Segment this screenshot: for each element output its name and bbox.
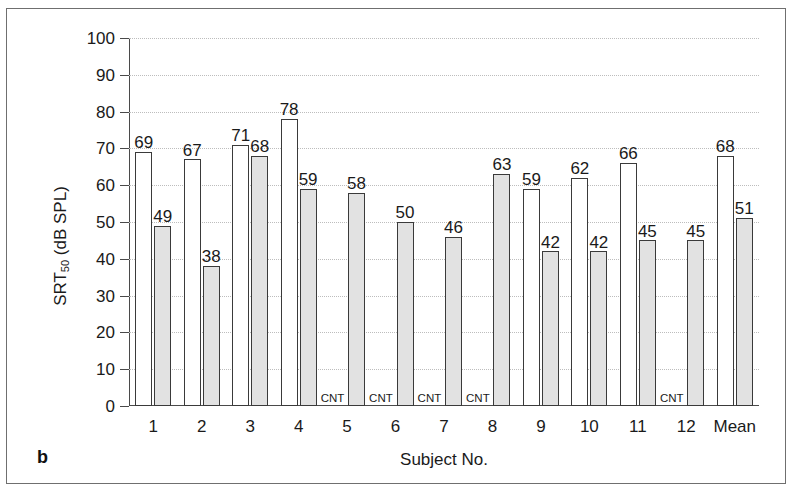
plot-area: 1009080706050403020100 6949673871687859C… (129, 38, 759, 406)
bar-value-label: 71 (231, 127, 250, 145)
y-axis-tick (120, 332, 129, 333)
bar-gray[interactable]: 58 (348, 193, 365, 406)
x-axis-tick-label: 10 (580, 418, 599, 435)
bar-value-label: 38 (202, 248, 221, 266)
y-axis-title: SRT50 (dB SPL) (51, 186, 71, 306)
bar-group: 6949 (135, 38, 171, 406)
x-axis-tick-label: 11 (629, 418, 647, 435)
bar-gray[interactable]: 38 (203, 266, 220, 406)
x-axis-tick-label: 4 (294, 418, 303, 435)
bar-value-label: 42 (589, 234, 608, 252)
y-axis-tick (120, 38, 129, 39)
bar-value-label: 68 (716, 138, 735, 156)
bar-value-label: 42 (541, 234, 560, 252)
cnt-marker: CNT (652, 393, 691, 405)
bar-white[interactable]: 59 (523, 189, 540, 406)
bar-value-label: 49 (153, 208, 172, 226)
y-axis-tick-label: 0 (106, 398, 115, 415)
bar-value-label: 68 (250, 138, 269, 156)
y-axis-tick-label: 50 (96, 214, 115, 231)
x-axis-tick-label: 5 (342, 418, 351, 435)
x-axis-tick-label: 8 (488, 418, 497, 435)
y-axis-tick (120, 222, 129, 223)
cnt-marker: CNT (361, 393, 400, 405)
bar-gray[interactable]: 51 (736, 218, 753, 406)
bar-group: CNT45 (668, 38, 704, 406)
y-axis-title-subscript: 50 (59, 260, 71, 272)
bar-gray[interactable]: 50 (397, 222, 414, 406)
y-axis-tick (120, 185, 129, 186)
x-axis-tick-label: 9 (536, 418, 545, 435)
y-axis-tick (120, 369, 129, 370)
y-axis-tick (120, 296, 129, 297)
y-axis-tick (120, 148, 129, 149)
x-axis-tick-label: 7 (439, 418, 448, 435)
y-axis-title-base: SRT (51, 272, 70, 306)
bar-value-label: 58 (347, 175, 366, 193)
bar-white[interactable]: 67 (184, 159, 201, 406)
bar-white[interactable]: 66 (620, 163, 637, 406)
bar-group: 5942 (523, 38, 559, 406)
bar-value-label: 45 (638, 223, 657, 241)
bar-gray[interactable]: 42 (590, 251, 607, 406)
y-axis-tick-label: 40 (96, 250, 115, 267)
bar-gray[interactable]: 45 (639, 240, 656, 406)
y-axis-tick (120, 75, 129, 76)
y-axis-title-unit: (dB SPL) (51, 186, 70, 260)
x-axis-tick-label: 3 (245, 418, 254, 435)
x-axis-tick-label: 12 (677, 418, 696, 435)
bar-white[interactable]: 78 (281, 119, 298, 406)
bar-group: 7168 (232, 38, 268, 406)
bar-group: CNT46 (426, 38, 462, 406)
x-axis-tick-label: 1 (148, 418, 157, 435)
y-axis-tick-label: 60 (96, 177, 115, 194)
bar-value-label: 59 (299, 171, 318, 189)
plot-wrapper: SRT50 (dB SPL) 1009080706050403020100 69… (7, 9, 785, 483)
y-axis-tick-label: 70 (96, 140, 115, 157)
bar-white[interactable]: 69 (135, 152, 152, 406)
y-axis-tick-label: 20 (96, 324, 115, 341)
y-axis-tick-label: 80 (96, 103, 115, 120)
bar-gray[interactable]: 42 (542, 251, 559, 406)
bar-gray[interactable]: 49 (154, 226, 171, 406)
bar-value-label: 67 (183, 142, 202, 160)
bar-group: 6851 (717, 38, 753, 406)
y-axis-tick-label: 90 (96, 66, 115, 83)
bar-value-label: 69 (134, 134, 153, 152)
bar-white[interactable]: 71 (232, 145, 249, 406)
bar-group: CNT50 (378, 38, 414, 406)
x-axis-tick-label: 6 (391, 418, 400, 435)
bar-value-label: 62 (570, 160, 589, 178)
bar-gray[interactable]: 46 (445, 237, 462, 406)
y-axis-tick (120, 112, 129, 113)
figure-panel: SRT50 (dB SPL) 1009080706050403020100 69… (6, 8, 786, 484)
cnt-marker: CNT (458, 393, 497, 405)
y-axis-tick-label: 30 (96, 287, 115, 304)
bar-gray[interactable]: 63 (493, 174, 510, 406)
bar-white[interactable]: 68 (717, 156, 734, 406)
bar-white[interactable]: 62 (571, 178, 588, 406)
y-axis-tick (120, 406, 129, 407)
bar-value-label: 51 (735, 200, 754, 218)
bar-value-label: 46 (444, 219, 463, 237)
y-axis-tick (120, 259, 129, 260)
bar-value-label: 45 (686, 223, 705, 241)
bar-value-label: 78 (280, 101, 299, 119)
bar-group: 6738 (184, 38, 220, 406)
bar-value-label: 63 (492, 156, 511, 174)
bar-gray[interactable]: 45 (687, 240, 704, 406)
bar-group: CNT58 (329, 38, 365, 406)
bar-group: 7859 (281, 38, 317, 406)
bar-group: 6242 (571, 38, 607, 406)
bar-value-label: 59 (522, 171, 541, 189)
bar-value-label: 50 (396, 204, 415, 222)
x-axis-tick-label: 2 (197, 418, 206, 435)
x-axis-tick-label: Mean (714, 418, 757, 435)
bar-gray[interactable]: 68 (251, 156, 268, 406)
panel-label: b (37, 447, 48, 468)
cnt-marker: CNT (313, 393, 352, 405)
bar-value-label: 66 (619, 145, 638, 163)
cnt-marker: CNT (410, 393, 449, 405)
bar-group: CNT63 (474, 38, 510, 406)
bar-gray[interactable]: 59 (300, 189, 317, 406)
